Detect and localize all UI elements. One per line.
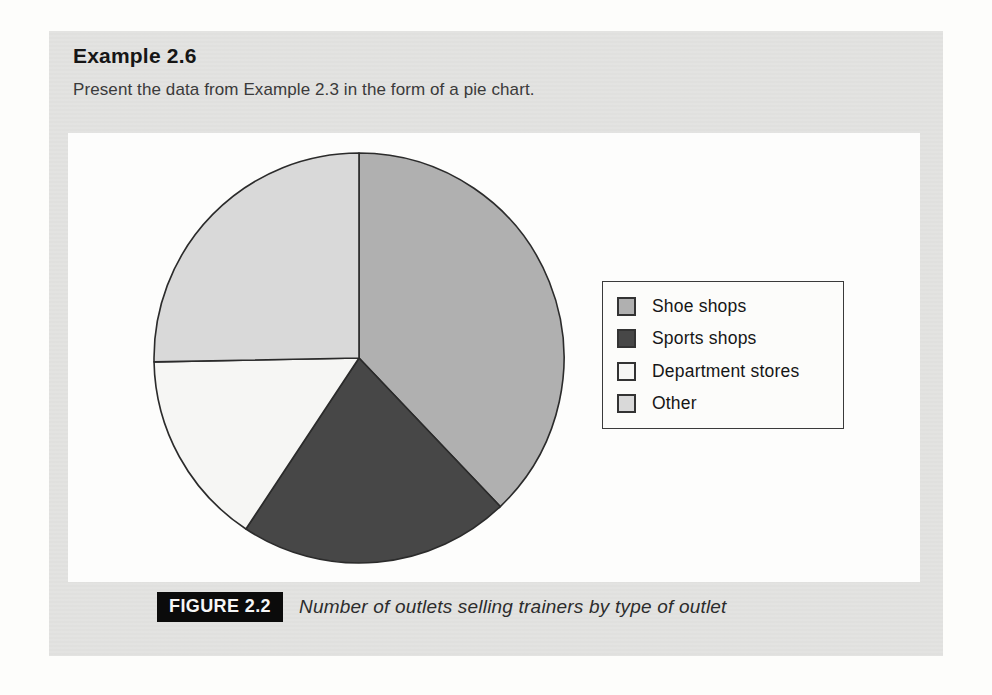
page: Example 2.6 Present the data from Exampl… — [0, 0, 992, 695]
figure-caption-text: Number of outlets selling trainers by ty… — [299, 596, 727, 618]
pie-chart — [149, 148, 569, 568]
legend-swatch-sports-shops — [617, 329, 636, 348]
example-body: Present the data from Example 2.3 in the… — [73, 80, 535, 100]
legend-swatch-shoe-shops — [617, 297, 636, 316]
legend-item-department-stores: Department stores — [617, 361, 843, 382]
legend-label: Other — [652, 393, 697, 414]
legend-label: Department stores — [652, 361, 799, 382]
legend-label: Shoe shops — [652, 296, 746, 317]
figure-caption-row: FIGURE 2.2 Number of outlets selling tra… — [157, 592, 727, 622]
pie-slice-other — [154, 153, 359, 362]
figure-label-badge: FIGURE 2.2 — [157, 592, 283, 622]
legend-item-sports-shops: Sports shops — [617, 328, 843, 349]
legend: Shoe shops Sports shops Department store… — [602, 281, 844, 429]
example-title: Example 2.6 — [73, 44, 197, 68]
legend-label: Sports shops — [652, 328, 757, 349]
example-panel: Example 2.6 Present the data from Exampl… — [49, 31, 943, 656]
legend-swatch-other — [617, 394, 636, 413]
figure-box: Shoe shops Sports shops Department store… — [68, 133, 920, 582]
legend-item-shoe-shops: Shoe shops — [617, 296, 843, 317]
legend-swatch-department-stores — [617, 362, 636, 381]
legend-item-other: Other — [617, 393, 843, 414]
